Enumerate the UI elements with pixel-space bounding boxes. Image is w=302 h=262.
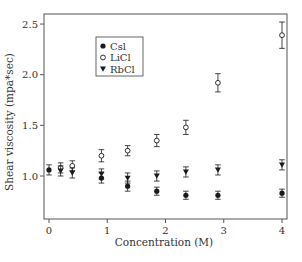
y-tick-label: 1.5	[22, 120, 38, 131]
legend-label: Csl	[110, 41, 126, 52]
open-circle-marker	[125, 148, 130, 153]
filled-triangle-marker	[125, 176, 131, 181]
series-layer	[46, 22, 285, 199]
filled-circle-marker	[279, 191, 284, 196]
open-circle-marker	[154, 138, 159, 143]
y-tick-label: 2.0	[22, 69, 38, 80]
open-circle-marker	[280, 33, 285, 38]
filled-circle-marker	[154, 189, 159, 194]
x-axis-label: Concentration (M)	[115, 236, 213, 248]
filled-triangle-marker	[69, 171, 75, 176]
filled-circle-marker	[46, 167, 51, 172]
filled-triangle-marker	[183, 170, 189, 175]
y-axis-label: Shear viscosity (mpa*sec)	[3, 53, 15, 191]
open-circle-marker	[183, 125, 188, 130]
chart-svg: 1.01.52.02.5 01234 CslLiClRbCl Concentra…	[0, 0, 302, 262]
x-tick-label: 4	[279, 225, 285, 236]
legend: CslLiClRbCl	[96, 37, 143, 76]
y-axis: 1.01.52.02.5	[22, 19, 44, 182]
filled-triangle-marker	[279, 162, 285, 167]
x-tick-label: 0	[46, 225, 52, 236]
filled-circle-marker	[183, 193, 188, 198]
y-tick-label: 2.5	[22, 19, 38, 30]
open-circle-marker	[216, 80, 221, 85]
open-circle-marker	[99, 153, 104, 158]
x-tick-label: 3	[221, 225, 227, 236]
legend-label: LiCl	[110, 52, 131, 63]
y-tick-label: 1.0	[22, 171, 38, 182]
viscosity-chart: 1.01.52.02.5 01234 CslLiClRbCl Concentra…	[0, 0, 302, 262]
open-circle-marker	[101, 55, 106, 60]
series-rbcl	[58, 160, 285, 183]
filled-circle-marker	[215, 193, 220, 198]
x-tick-label: 1	[104, 225, 110, 236]
filled-triangle-marker	[98, 172, 104, 177]
series-licl	[58, 22, 285, 173]
filled-triangle-marker	[154, 174, 160, 179]
plot-frame	[44, 14, 287, 219]
plot-border	[44, 14, 287, 219]
series-csl	[46, 165, 285, 199]
x-axis: 01234	[46, 219, 285, 236]
x-tick-label: 2	[162, 225, 168, 236]
legend-label: RbCl	[110, 64, 135, 75]
filled-circle-marker	[125, 184, 130, 189]
filled-triangle-marker	[215, 168, 221, 173]
filled-circle-marker	[100, 43, 105, 48]
